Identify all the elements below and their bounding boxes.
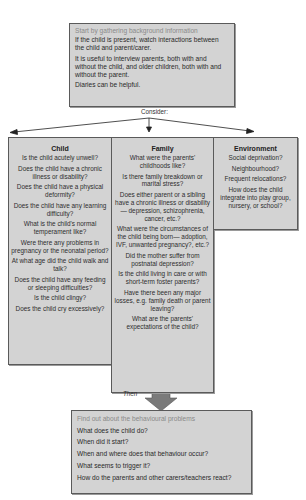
behavioural-problems-box: Find out about the behavioural problems … [71, 410, 252, 494]
arrow-to-environment [149, 118, 250, 131]
behavioural-problems-line: What seems to trigger it? [77, 462, 246, 470]
child-question: Were there any problems in pregnancy or … [11, 239, 109, 255]
family-question: Have there been any major losses, e.g. f… [114, 289, 211, 313]
environment-question: Neighbourhood? [216, 165, 295, 173]
environment-question: How does the child integrate into play g… [216, 186, 295, 210]
behavioural-problems-line: How do the parents and other carers/teac… [77, 474, 246, 482]
environment-column: Environment Social deprivation? Neighbou… [213, 137, 298, 230]
then-label: Then [123, 390, 137, 397]
child-question: Is the child clingy? [11, 294, 109, 302]
child-question: At what age did the child walk and talk? [11, 257, 109, 273]
family-question: What are the parents' expectations of th… [114, 315, 211, 331]
child-question: Does the child have a physical deformity… [11, 183, 109, 199]
family-column: Family What were the parents' childhoods… [111, 137, 214, 393]
family-question: Did the mother suffer from postnatal dep… [114, 252, 211, 268]
child-question: Does the child cry excessively? [11, 305, 109, 313]
background-info-line: Diaries can be helpful. [75, 81, 229, 89]
behavioural-problems-heading: Find out about the behavioural problems [77, 415, 246, 424]
child-question: Does the child have any learning difficu… [11, 202, 109, 218]
arrow-head-environment-icon [247, 129, 255, 134]
background-info-heading: Start by gathering background informatio… [75, 27, 229, 36]
family-question: Is the child living in care or with shor… [114, 270, 211, 286]
background-info-line: It is useful to interview parents, both … [75, 55, 229, 80]
child-column: Child Is the child acutely unwell? Does … [8, 137, 112, 365]
environment-column-title: Environment [216, 144, 295, 153]
child-question: Does the child have a chronic illness or… [11, 165, 109, 181]
environment-question: Social deprivation? [216, 154, 295, 162]
family-question: What were the parents' childhoods like? [114, 154, 211, 170]
background-info-line: If the child is present, watch interacti… [75, 36, 229, 52]
behavioural-problems-line: When did it start? [77, 438, 246, 446]
environment-question: Frequent relocations? [216, 175, 295, 183]
background-info-box: Start by gathering background informatio… [69, 23, 235, 107]
consider-label: Consider: [141, 108, 168, 115]
child-question: What is the child's normal temperament l… [11, 220, 109, 236]
child-question: Does the child have any feeding or sleep… [11, 276, 109, 292]
arrow-head-child-icon [10, 130, 18, 135]
child-column-title: Child [11, 144, 109, 153]
arrow-to-child [14, 118, 149, 132]
arrow-head-family-icon [147, 127, 152, 132]
child-question: Is the child acutely unwell? [11, 154, 109, 162]
family-question: What were the circumstances of the child… [114, 225, 211, 249]
family-column-title: Family [114, 144, 211, 153]
behavioural-problems-line: What does the child do? [77, 427, 246, 435]
behavioural-problems-line: When and where does that behaviour occur… [77, 450, 246, 458]
family-question: Does either parent or a sibling have a c… [114, 191, 211, 223]
family-question: Is there family breakdown or marital str… [114, 173, 211, 189]
